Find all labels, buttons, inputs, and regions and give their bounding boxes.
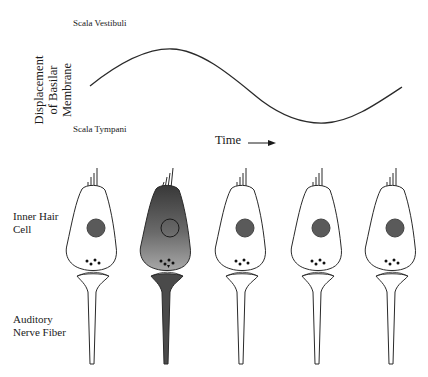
hair-cell-1 xyxy=(66,168,116,364)
diagram-graphics xyxy=(0,0,428,377)
nerve-fiber xyxy=(226,274,258,364)
hair-cell-diagram: Scala Vestibuli Scala Tympani Displaceme… xyxy=(0,0,428,377)
hair-cell-4 xyxy=(291,168,341,364)
hair-cell-5 xyxy=(365,168,415,364)
time-arrow-icon xyxy=(248,140,276,146)
basilar-membrane-waveform xyxy=(90,49,402,123)
nucleus-icon xyxy=(312,219,330,237)
nerve-fiber xyxy=(302,274,334,364)
hair-cell-2 xyxy=(140,168,190,364)
nerve-fiber xyxy=(151,274,183,364)
nucleus-icon xyxy=(236,219,254,237)
nerve-fiber xyxy=(77,274,109,364)
nucleus-icon xyxy=(386,219,404,237)
cell-body xyxy=(140,185,190,270)
nerve-fiber xyxy=(376,274,408,364)
hair-cell-3 xyxy=(215,168,265,364)
nucleus-icon xyxy=(87,219,105,237)
